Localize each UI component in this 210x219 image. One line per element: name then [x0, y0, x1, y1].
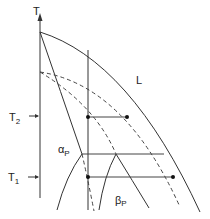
t1-label: T1 — [8, 171, 20, 186]
tie-point-t1-right — [171, 175, 175, 179]
t2-label: T2 — [9, 111, 21, 126]
liquid-region-label: L — [136, 74, 142, 86]
alpha-region-label: αP — [58, 143, 70, 158]
axis-label-t: T — [33, 5, 40, 17]
tie-point-t2-left — [86, 115, 90, 119]
tie-point-t2-right — [125, 115, 129, 119]
beta-left-boundary — [99, 154, 116, 210]
tie-point-t1-left — [86, 175, 90, 179]
liquidus-curve — [40, 32, 200, 212]
phase-diagram: T T2 T1 L αP βP — [0, 0, 210, 219]
beta-region-label: βP — [115, 194, 127, 208]
t2-arrow-icon — [35, 114, 39, 118]
alpha-solvus-curve — [57, 154, 82, 210]
t1-arrow-icon — [35, 175, 39, 179]
alpha-solidus-curve — [40, 32, 82, 154]
